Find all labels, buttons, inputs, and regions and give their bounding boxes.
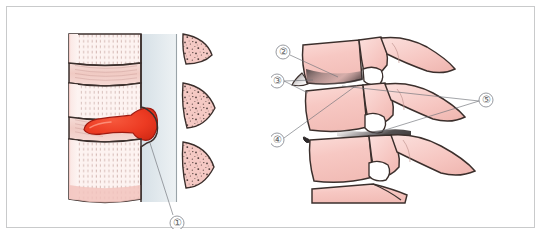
spinous-processes xyxy=(182,34,215,188)
panel-lateral-lumbar-spine: ② ③ ④ ⑤ xyxy=(271,7,535,227)
facet-joint-L3 xyxy=(369,161,390,181)
figure-frame: ① xyxy=(6,6,535,228)
vertebral-body-L2 xyxy=(305,85,367,131)
callout-3-label: ③ xyxy=(272,76,281,86)
callout-2-label: ② xyxy=(278,47,287,57)
spinous-process-bottom xyxy=(182,142,214,188)
spinous-process-top xyxy=(183,34,212,64)
vertebra-L1 xyxy=(292,37,455,86)
vertebral-body-superior xyxy=(69,34,141,66)
callout-5-label: ⑤ xyxy=(481,95,490,105)
callout-4-label: ④ xyxy=(272,135,281,145)
facet-joint-L2 xyxy=(365,113,386,132)
sagittal-illustration: ① xyxy=(7,7,271,229)
vertebral-body-middle xyxy=(69,83,141,120)
spinous-process-L1 xyxy=(381,37,455,72)
vertebra-L3 xyxy=(309,135,475,203)
panel-sagittal-disc-herniation: ① xyxy=(7,7,271,227)
osteophyte-fragment xyxy=(303,137,310,143)
vertebral-body-L4-partial xyxy=(312,184,407,203)
spinous-process-middle xyxy=(183,83,216,128)
callout-1-label: ① xyxy=(173,218,182,228)
figure-root: ① xyxy=(0,0,543,245)
lateral-spine-illustration: ② ③ ④ ⑤ xyxy=(271,7,536,229)
facet-joint-L1 xyxy=(363,67,383,85)
vertebral-body-L3 xyxy=(309,136,373,182)
